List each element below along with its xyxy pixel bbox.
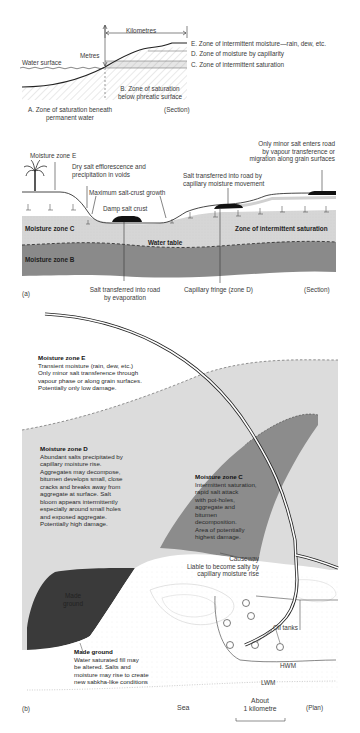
- zone-a-line-1: A. Zone of saturation beneath: [20, 106, 120, 114]
- zone-e-label: E. Zone of intermittent moisture—rain, d…: [191, 40, 326, 48]
- zone-d-label: D. Zone of moisture by capillarity: [191, 50, 284, 58]
- panel-b-label: (b): [22, 705, 30, 713]
- zone-d-note-line: and exposed aggregate.: [40, 513, 123, 521]
- only-minor-salt-label: Only minor salt enters road by vapour tr…: [240, 140, 335, 163]
- zone-c-note-line: rapid salt attack: [195, 488, 257, 496]
- scale-line-1: About: [230, 697, 290, 705]
- section-label-a: (Section): [304, 286, 330, 294]
- metres-label: Metres: [80, 52, 100, 60]
- causeway-line-2: capillary moisture rise: [180, 570, 259, 578]
- zone-c-note-line: Area of potentially: [195, 526, 257, 534]
- salt-capillary-line-1: Salt transferred into road by: [183, 172, 264, 180]
- made-ground-note-line: be altered. Salts and: [74, 663, 149, 671]
- only-minor-line-1: Only minor salt enters road: [240, 140, 335, 148]
- causeway-line-1: Liable to become salty by: [180, 563, 259, 571]
- zone-b-line-1: B. Zone of saturation: [115, 85, 185, 93]
- zone-b-line-2: below phreatic surface: [115, 93, 185, 101]
- zone-e-note-title: Moisture zone E: [38, 354, 142, 362]
- zone-e-note-line: Potentially only low damage.: [38, 384, 142, 392]
- made-ground-area-label: Made ground: [58, 592, 88, 607]
- hwm-label: HWM: [280, 662, 296, 670]
- water-table-label: Water table: [148, 239, 182, 247]
- plan-label: (Plan): [306, 704, 323, 712]
- capillary-fringe-label: Capillary fringe (zone D): [184, 286, 253, 294]
- sea-label: Sea: [177, 704, 189, 712]
- moisture-zone-c-note: Moisture zone C Intermittent saturation,…: [195, 473, 257, 541]
- water-surface-label: Water surface: [22, 59, 62, 67]
- kilometres-label: Kilometres: [126, 27, 156, 35]
- causeway-label: Causeway Liable to become salty by capil…: [180, 555, 259, 578]
- zone-c-note-line: Intermittent saturation,: [195, 481, 257, 489]
- salt-evaporation-line-2: by evaporation: [80, 294, 170, 302]
- zone-b-label: B. Zone of saturation below phreatic sur…: [115, 85, 185, 100]
- lwm-label: LWM: [261, 679, 275, 687]
- zone-c-label: C. Zone of intermittent saturation: [191, 61, 284, 69]
- zone-c-note-line: bitumen: [195, 511, 257, 519]
- panel-a-label: (a): [22, 290, 30, 298]
- zone-d-note-line: aggregate at surface. Salt: [40, 490, 123, 498]
- zone-c-note-line: decomposition.: [195, 518, 257, 526]
- zone-c-note-title: Moisture zone C: [195, 473, 257, 481]
- zone-c-note-line: highest damage.: [195, 533, 257, 541]
- made-ground-area-line-2: ground: [58, 600, 88, 608]
- zone-d-note-line: Potentially high damage.: [40, 520, 123, 528]
- scale-label: About 1 kilometre: [230, 697, 290, 712]
- salt-capillary-line-2: capillary moisture movement: [183, 180, 264, 188]
- made-ground-note-line: Water saturated fill may: [74, 656, 149, 664]
- zone-c-note-line: with pot-holes,: [195, 496, 257, 504]
- only-minor-line-3: migration along grain surfaces: [240, 155, 335, 163]
- damp-salt-crust-label: Damp salt crust: [103, 205, 147, 213]
- zone-a-line-2: permanent water: [20, 114, 120, 122]
- made-ground-area-line-1: Made: [58, 592, 88, 600]
- zone-d-note-line: capillary moisture rise.: [40, 460, 123, 468]
- zone-e-note-line: Only minor salt transference through: [38, 369, 142, 377]
- moisture-zone-c-label: Moisture zone C: [25, 225, 74, 233]
- zone-intermittent-saturation-label: Zone of intermittent saturation: [235, 225, 328, 233]
- zone-d-note-line: bloom appears intermittently: [40, 498, 123, 506]
- section-label-top: (Section): [164, 106, 190, 114]
- salt-evaporation-line-1: Salt transferred into road: [80, 286, 170, 294]
- zone-c-note-line: aggregate and: [195, 503, 257, 511]
- zone-e-note-line: vapour phase or along grain surfaces.: [38, 377, 142, 385]
- made-ground-note: Made ground Water saturated fill may be …: [74, 648, 149, 686]
- moisture-zone-d-note: Moisture zone D Abundant salts precipita…: [40, 445, 123, 528]
- palm-tree-icon: [24, 160, 47, 191]
- zone-d-note-line: Abundant salts precipitated by: [40, 453, 123, 461]
- moisture-zone-b-label: Moisture zone B: [25, 256, 74, 264]
- zone-d-note-title: Moisture zone D: [40, 445, 123, 453]
- dry-salt-label: Dry salt efflorescence and precipitation…: [72, 163, 146, 178]
- max-salt-crust-label: Maximum salt-crust growth: [89, 189, 165, 197]
- zone-d-note-line: Aggregates may decompose,: [40, 468, 123, 476]
- zone-d-note-line: bitumen develops small, close: [40, 475, 123, 483]
- made-ground-note-title: Made ground: [74, 648, 149, 656]
- zone-d-note-line: cracks and breaks away from: [40, 483, 123, 491]
- causeway-title: Causeway: [180, 555, 259, 563]
- zone-a-label: A. Zone of saturation beneath permanent …: [20, 106, 120, 121]
- zone-e-note-line: Transient moisture (rain, dew, etc.): [38, 362, 142, 370]
- moisture-zone-e-label: Moisture zone E: [30, 152, 76, 160]
- only-minor-line-2: by vapour transference or: [240, 148, 335, 156]
- made-ground-note-line: moisture may rise to create: [74, 671, 149, 679]
- dry-salt-line-1: Dry salt efflorescence and: [72, 163, 146, 171]
- salt-capillary-label: Salt transferred into road by capillary …: [183, 172, 264, 187]
- salt-evaporation-label: Salt transferred into road by evaporatio…: [80, 286, 170, 301]
- scale-line-2: 1 kilometre: [230, 705, 290, 713]
- dry-salt-line-2: precipitation in voids: [72, 171, 146, 179]
- road-section-diagram: [22, 160, 336, 283]
- made-ground-note-line: new sabkha-like conditions: [74, 678, 149, 686]
- oil-tanks-label: Oil tanks: [273, 624, 298, 632]
- moisture-zone-e-note: Moisture zone E Transient moisture (rain…: [38, 354, 142, 392]
- zone-d-note-line: especially around small holes: [40, 505, 123, 513]
